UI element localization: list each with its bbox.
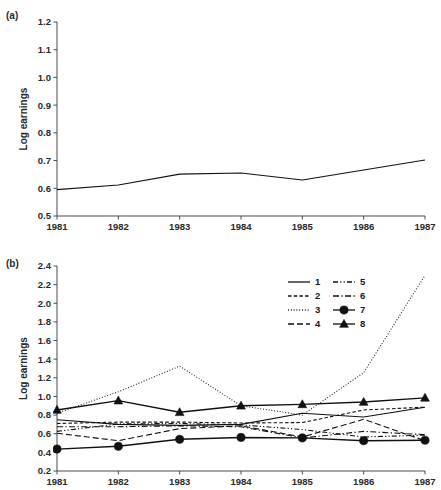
legend-item-3[interactable]: 3: [288, 304, 320, 315]
series-line-1: [57, 160, 425, 190]
legend-item-5[interactable]: 5: [333, 276, 366, 287]
legend-item-1[interactable]: 1: [288, 276, 321, 287]
y-tick-label: 1.2: [38, 16, 51, 27]
y-tick-label: 0.2: [38, 465, 51, 476]
series-marker-8: [114, 396, 123, 404]
y-tick-label: 1.1: [38, 44, 52, 55]
legend: 12345678: [288, 276, 366, 329]
legend-item-4[interactable]: 4: [288, 318, 321, 329]
legend-marker-7: [340, 306, 348, 314]
legend-label-2: 2: [315, 290, 320, 301]
y-tick-label: 0.5: [38, 210, 52, 221]
x-tick-label: 1982: [108, 476, 129, 487]
legend-label-4: 4: [315, 318, 321, 329]
legend-label-5: 5: [360, 276, 366, 287]
chart-canvas: 0.50.60.70.80.91.01.11.21981198219831984…: [0, 0, 441, 490]
legend-label-8: 8: [360, 318, 365, 329]
x-tick-label: 1981: [46, 476, 68, 487]
series-marker-7: [176, 435, 184, 443]
figure-container: (a) (b) 0.50.60.70.80.91.01.11.219811982…: [0, 0, 441, 490]
x-tick-label: 1986: [353, 476, 374, 487]
series-marker-7: [114, 442, 122, 450]
series-marker-8: [421, 393, 430, 401]
legend-label-6: 6: [360, 290, 365, 301]
panel-a-tag: (a): [6, 10, 18, 21]
legend-item-8[interactable]: 8: [333, 318, 365, 329]
x-tick-label: 1987: [414, 221, 435, 232]
panel-b-tag: (b): [6, 258, 19, 269]
y-tick-label: 0.9: [38, 100, 51, 111]
y-tick-label: 2.2: [38, 279, 51, 290]
series-marker-7: [298, 434, 306, 442]
legend-label-1: 1: [315, 276, 321, 287]
y-tick-label: 0.4: [38, 447, 52, 458]
series-marker-7: [421, 436, 429, 444]
legend-label-3: 3: [315, 304, 320, 315]
series-marker-7: [53, 445, 61, 453]
x-tick-label: 1983: [169, 221, 190, 232]
legend-item-2[interactable]: 2: [288, 290, 320, 301]
legend-label-7: 7: [360, 304, 365, 315]
series-line-3: [57, 275, 425, 415]
panel-b: 0.20.40.60.81.01.21.41.61.82.02.22.41981…: [18, 260, 436, 487]
y-tick-label: 0.6: [38, 428, 51, 439]
legend-item-7[interactable]: 7: [333, 304, 365, 315]
x-tick-label: 1983: [169, 476, 190, 487]
x-tick-label: 1984: [230, 221, 252, 232]
legend-item-6[interactable]: 6: [333, 290, 365, 301]
series-marker-7: [237, 433, 245, 441]
data-group: [57, 160, 425, 190]
data-group: [53, 275, 430, 453]
x-tick-label: 1984: [230, 476, 252, 487]
x-tick-label: 1986: [353, 221, 374, 232]
y-tick-label: 1.8: [38, 316, 51, 327]
panel-a: 0.50.60.70.80.91.01.11.21981198219831984…: [18, 16, 436, 232]
y-tick-label: 1.4: [38, 354, 52, 365]
y-tick-label: 1.0: [38, 391, 51, 402]
x-tick-label: 1981: [46, 221, 68, 232]
y-tick-label: 0.6: [38, 183, 51, 194]
x-tick-label: 1985: [292, 476, 314, 487]
y-tick-label: 0.8: [38, 127, 51, 138]
y-tick-label: 1.6: [38, 335, 51, 346]
y-tick-label: 2.4: [38, 260, 52, 271]
series-marker-7: [360, 437, 368, 445]
y-tick-label: 1.0: [38, 72, 51, 83]
y-tick-label: 2.0: [38, 298, 51, 309]
y-axis-title: Log earnings: [18, 87, 29, 150]
x-tick-label: 1982: [108, 221, 129, 232]
y-tick-label: 0.8: [38, 409, 51, 420]
y-tick-label: 1.2: [38, 372, 51, 383]
y-axis-title: Log earnings: [18, 337, 29, 400]
y-tick-label: 0.7: [38, 155, 51, 166]
x-tick-label: 1987: [414, 476, 435, 487]
x-tick-label: 1985: [292, 221, 314, 232]
